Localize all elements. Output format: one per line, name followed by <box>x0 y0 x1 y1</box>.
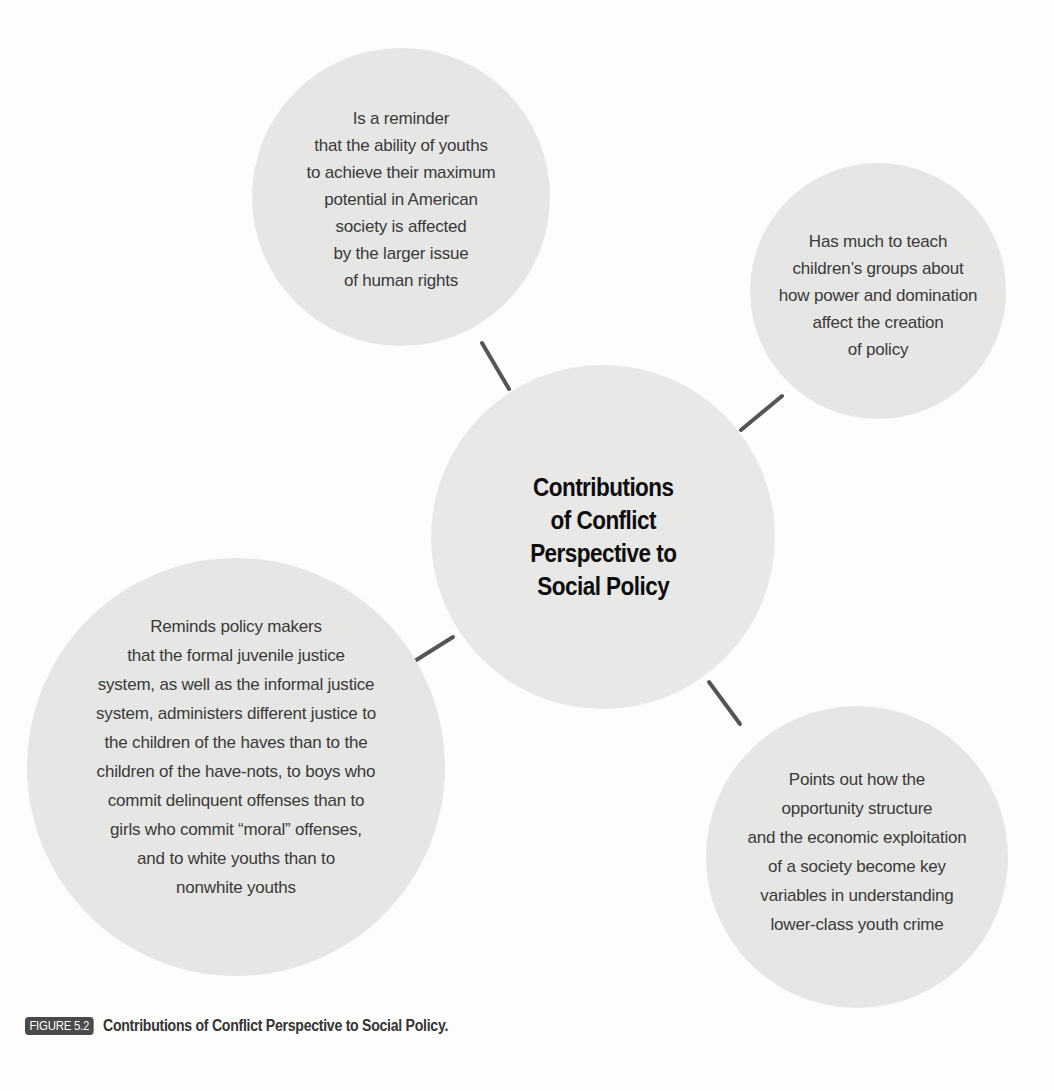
connector-bottom-right <box>709 682 740 724</box>
text-line: to achieve their maximum <box>307 159 496 186</box>
text-line: of human rights <box>344 267 458 294</box>
title-line: Perspective to <box>530 537 676 570</box>
text-line: opportunity structure <box>782 794 933 823</box>
text-line: children’s groups about <box>793 255 964 282</box>
text-line: Points out how the <box>789 765 925 794</box>
connector-top-right <box>741 396 782 430</box>
text-line: potential in American <box>324 186 478 213</box>
connector-top-left <box>482 343 509 389</box>
text-line: society is affected <box>335 213 466 240</box>
text-line: girls who commit “moral” offenses, <box>110 815 362 844</box>
text-line: of a society become key <box>768 852 946 881</box>
bubble-text: Reminds policy makers that the formal ju… <box>96 612 376 902</box>
text-line: system, as well as the informal justice <box>98 670 375 699</box>
figure-number-badge: FIGURE 5.2 <box>25 1017 93 1035</box>
text-line: lower-class youth crime <box>770 910 943 939</box>
bubble-text: Points out how the opportunity structure… <box>747 765 966 939</box>
central-title: Contributions of Conflict Perspective to… <box>530 471 676 603</box>
text-line: Is a reminder <box>353 105 450 132</box>
bubble-power-domination: Has much to teach children’s groups abou… <box>750 163 1006 419</box>
text-line: that the formal juvenile justice <box>127 641 345 670</box>
text-line: of policy <box>848 336 909 363</box>
bubble-text: Has much to teach children’s groups abou… <box>779 228 977 363</box>
caption-text: Contributions of Conflict Perspective to… <box>103 1017 448 1035</box>
text-line: affect the creation <box>812 309 943 336</box>
connector-bottom-left <box>410 637 453 664</box>
text-line: nonwhite youths <box>176 873 296 902</box>
text-line: the children of the haves than to the <box>105 728 368 757</box>
figure-caption: FIGURE 5.2 Contributions of Conflict Per… <box>25 1017 495 1035</box>
text-line: and the economic exploitation <box>747 823 966 852</box>
text-line: Reminds policy makers <box>150 612 322 641</box>
text-line: that the ability of youths <box>314 132 487 159</box>
bubble-human-rights: Is a reminder that the ability of youths… <box>252 48 550 346</box>
bubble-central-topic: Contributions of Conflict Perspective to… <box>431 365 775 709</box>
figure-canvas: Is a reminder that the ability of youths… <box>0 0 1054 1091</box>
title-line: Contributions <box>533 471 673 504</box>
text-line: commit delinquent offenses than to <box>108 786 365 815</box>
title-line: of Conflict <box>550 504 655 537</box>
text-line: variables in understanding <box>760 881 953 910</box>
text-line: system, administers different justice to <box>96 699 376 728</box>
text-line: by the larger issue <box>333 240 468 267</box>
text-line: and to white youths than to <box>137 844 335 873</box>
bubble-differential-justice: Reminds policy makers that the formal ju… <box>27 558 445 976</box>
text-line: Has much to teach <box>809 228 947 255</box>
text-line: children of the have-nots, to boys who <box>97 757 376 786</box>
title-line: Social Policy <box>537 570 669 603</box>
bubble-opportunity-structure: Points out how the opportunity structure… <box>706 706 1008 1008</box>
text-line: how power and domination <box>779 282 977 309</box>
bubble-text: Is a reminder that the ability of youths… <box>307 105 496 294</box>
